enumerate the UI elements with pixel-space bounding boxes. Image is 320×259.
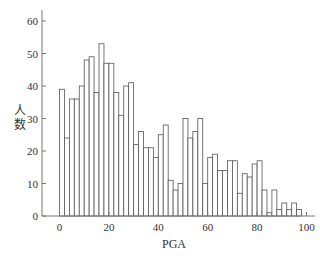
histogram-bar [188,138,193,216]
histogram-bar [74,99,79,216]
histogram-bar [297,210,302,217]
histogram-bar [79,86,84,216]
histogram-bar [208,158,213,217]
histogram-bar [148,148,153,216]
histogram-bar [89,57,94,216]
histogram-bar [109,63,114,216]
histogram-bar [114,93,119,217]
x-tick-label: 80 [252,221,264,233]
x-axis-title: PGA [162,237,186,251]
histogram-bar [178,184,183,217]
x-tick-label: 40 [153,221,165,233]
histogram-chart: 0102030405060 020406080100 PGA 数 人 [0,0,320,259]
histogram-bar [257,161,262,216]
histogram-bar [242,174,247,216]
x-tick-label: 100 [298,221,315,233]
histogram-bar [168,180,173,216]
x-tick-label: 20 [103,221,115,233]
histogram-bar [153,158,158,217]
y-axis-title-char-1: 人 [14,104,26,118]
histogram-bar [272,190,277,216]
histogram-bar [99,44,104,216]
histogram-bar [104,63,109,216]
histogram-bar [143,148,148,216]
histogram-bar [282,203,287,216]
y-tick-label: 50 [27,48,39,60]
histogram-bar [198,119,203,217]
histogram-bar [183,119,188,217]
histogram-bar [158,135,163,216]
histogram-bar [139,132,144,217]
histogram-bar [218,171,223,217]
histogram-bar [64,138,69,216]
histogram-bar [94,93,99,217]
histogram-bar [134,145,139,217]
histogram-bar [262,190,267,216]
histogram-bar [193,132,198,217]
histogram-bar [213,154,218,216]
y-tick-label: 0 [33,210,39,222]
histogram-bar [227,161,232,216]
histogram-bar [124,86,129,216]
histogram-bar [252,164,257,216]
y-tick-label: 40 [27,80,39,92]
histogram-bar [173,190,178,216]
histogram-bar [129,83,134,216]
histogram-bar [232,161,237,216]
y-axis-title-char-2: 数 [14,117,26,132]
histogram-bar [237,193,242,216]
y-tick-label: 30 [27,113,39,125]
y-tick-label: 20 [27,145,39,157]
histogram-bar [84,60,89,216]
histogram-bar [163,125,168,216]
histogram-bar [287,210,292,217]
y-axis-ticks: 0102030405060 [27,15,46,222]
histogram-bar [277,210,282,217]
y-tick-label: 60 [27,15,39,27]
histogram-bar [203,184,208,217]
histogram-bar [69,99,74,216]
y-axis-title: 数 人 [14,104,26,132]
histogram-bar [60,89,65,216]
histogram-bar [247,177,252,216]
y-tick-label: 10 [27,178,39,190]
histogram-bar [292,203,297,216]
x-tick-label: 60 [202,221,214,233]
histogram-bar [119,115,124,216]
histogram-bar [223,171,228,217]
histogram-bars [60,44,302,216]
x-tick-label: 0 [57,221,63,233]
